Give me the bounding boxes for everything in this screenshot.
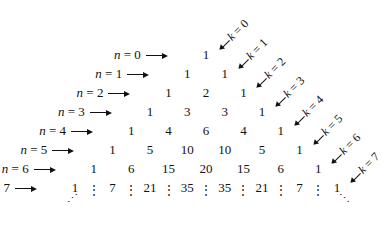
triangle-entry: 1 [221,66,228,82]
diagonal-label: k = 7 [345,150,383,188]
continuation-dots-vertical: ⋮ [237,188,249,193]
continuation-dots-vertical: ⋮ [312,188,324,193]
row-label: n = 0 [114,47,168,63]
triangle-entry: 15 [162,161,175,177]
row-eq: = 1 [102,66,122,81]
left-arrow-icon [217,38,231,52]
left-arrow-icon [292,114,306,128]
triangle-entry: 35 [181,180,194,196]
triangle-entry: 1 [315,161,322,177]
continuation-dots-vertical: ⋮ [88,188,100,193]
triangle-entry: 6 [203,123,210,139]
row-label: n = 7 [0,180,37,196]
triangle-entry: 10 [218,142,231,158]
right-arrow-icon [146,52,168,60]
triangle-entry: 15 [237,161,250,177]
row-label: n = 3 [58,104,112,120]
triangle-entry: 1 [147,104,154,120]
right-arrow-icon [127,71,149,79]
triangle-entry: 2 [203,85,210,101]
row-label: n = 5 [21,142,75,158]
row-eq: = 5 [27,142,47,157]
right-arrow-icon [90,109,112,117]
triangle-entry: 1 [278,123,285,139]
triangle-entry: 7 [109,180,116,196]
triangle-entry: 6 [128,161,135,177]
triangle-entry: 35 [218,180,231,196]
triangle-entry: 3 [184,104,191,120]
left-arrow-icon [274,95,288,109]
triangle-entry: 1 [184,66,191,82]
triangle-entry: 1 [240,85,247,101]
continuation-dots-right: ⋱ [339,192,350,205]
triangle-entry: 5 [147,142,154,158]
right-arrow-icon [108,90,130,98]
left-arrow-icon [311,133,325,147]
right-arrow-icon [15,185,37,193]
left-arrow-icon [348,171,362,185]
row-eq: = 4 [46,123,66,138]
row-label: n = 6 [2,161,56,177]
triangle-entry: 4 [165,123,172,139]
row-label: n = 2 [77,85,131,101]
triangle-entry: 1 [259,104,266,120]
row-eq: = 3 [64,104,84,119]
row-eq: = 2 [83,85,103,100]
continuation-dots-vertical: ⋮ [125,188,137,193]
triangle-entry: 7 [296,180,303,196]
row-eq: = 6 [8,161,28,176]
triangle-entry: 1 [296,142,303,158]
triangle-entry: 1 [203,47,210,63]
row-eq: = 7 [0,180,10,195]
triangle-entry: 6 [278,161,285,177]
right-arrow-icon [52,147,74,155]
continuation-dots-vertical: ⋮ [275,188,287,193]
triangle-entry: 1 [165,85,172,101]
triangle-entry: 3 [221,104,228,120]
triangle-entry: 5 [259,142,266,158]
row-label: n = 4 [39,123,93,139]
triangle-entry: 4 [240,123,247,139]
row-eq: = 0 [121,47,141,62]
triangle-entry: 21 [256,180,269,196]
triangle-entry: 1 [109,142,116,158]
right-arrow-icon [34,166,56,174]
right-arrow-icon [71,128,93,136]
row-label: n = 1 [95,66,149,82]
left-arrow-icon [330,152,344,166]
triangle-entry: 20 [200,161,213,177]
continuation-dots-vertical: ⋮ [163,188,175,193]
left-arrow-icon [255,76,269,90]
triangle-entry: 1 [91,161,98,177]
triangle-entry: 1 [128,123,135,139]
left-arrow-icon [236,57,250,71]
triangle-entry: 21 [143,180,156,196]
continuation-dots-left: ⋰ [67,192,78,205]
triangle-entry: 10 [181,142,194,158]
continuation-dots-vertical: ⋮ [200,188,212,193]
